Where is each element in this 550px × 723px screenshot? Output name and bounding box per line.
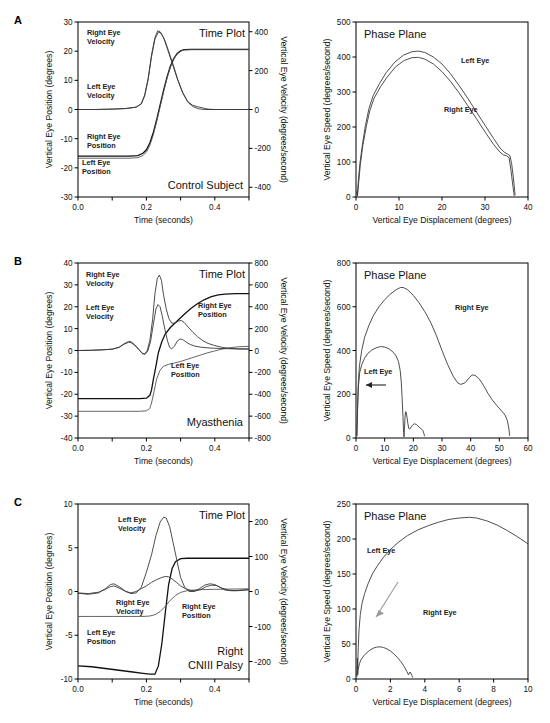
y-tick-label: -20: [61, 390, 73, 399]
y2-tick-label: -200: [255, 368, 272, 377]
label-right-eye-position-2: Position: [87, 141, 116, 150]
y-tick-label: 0: [68, 347, 73, 356]
y2-axis-title: Vertical Eye Velocity (degrees/second): [279, 518, 289, 665]
y-tick-label: -10: [61, 135, 73, 144]
label-right-eye-velocity-2: Velocity: [87, 37, 116, 46]
condition-label: Control Subject: [168, 179, 243, 191]
trace-left-eye-position: [78, 346, 249, 411]
time-plot-title: Time Plot: [199, 27, 245, 39]
x-tick-label: 10: [523, 685, 533, 694]
time-plot-title: Time Plot: [199, 268, 245, 280]
y2-tick-label: 0: [255, 588, 260, 597]
annotation-arrow-diagonal-head: [376, 610, 384, 617]
y-tick-label: 50: [341, 640, 351, 649]
phase-plane-title: Phase Plane: [364, 269, 426, 281]
x-tick-label: 20: [437, 203, 447, 212]
x-tick-label: 20: [409, 444, 419, 453]
label-right-eye: Right Eye: [444, 105, 478, 114]
label-left-eye-position-2: Position: [87, 637, 116, 646]
trace-left-eye-velocity: [78, 517, 249, 594]
x-tick-label: 0.4: [209, 444, 221, 453]
x-tick-label: 60: [523, 444, 533, 453]
y2-tick-label: 400: [255, 28, 269, 37]
label-left-eye: Left Eye: [461, 56, 489, 65]
x-axis-title: Time (seconds): [134, 215, 193, 225]
y-axis-title: Vertical Eye Position (degrees): [44, 292, 54, 410]
label-right-eye-position: Right Eye: [87, 132, 121, 141]
x-tick-label: 10: [394, 203, 404, 212]
y-tick-label: 100: [337, 605, 351, 614]
y2-tick-label: 200: [255, 518, 269, 527]
figure-container: A 0.00.20.4-30-20-100102030-400-20002004…: [0, 0, 550, 723]
y-tick-label: 200: [337, 390, 351, 399]
label-left-eye-position: Left Eye: [87, 628, 115, 637]
y-tick-label: -20: [61, 164, 73, 173]
label-right-eye-position-2: Position: [198, 310, 227, 319]
trace-left-eye: [357, 51, 515, 195]
x-tick-label: 0.4: [209, 685, 221, 694]
y-tick-label: 10: [63, 325, 73, 334]
x-tick-label: 0.0: [72, 203, 84, 212]
y2-tick-label: -400: [255, 183, 272, 192]
label-left-eye-position: Left Eye: [171, 361, 199, 370]
x-axis-title: Time (seconds): [134, 697, 193, 707]
y-tick-label: 40: [63, 259, 73, 268]
label-right-eye-position: Right Eye: [182, 602, 216, 611]
y-tick-label: 100: [337, 158, 351, 167]
annotation-arrow-left-head: [366, 382, 372, 388]
y-axis-title: Vertical Eye Position (degrees): [44, 51, 54, 169]
condition-label-line1: Right: [217, 645, 243, 657]
y-tick-label: -5: [65, 631, 73, 640]
x-tick-label: 8: [491, 685, 496, 694]
label-left-eye-position: Left Eye: [82, 158, 110, 167]
y-tick-label: 0: [68, 588, 73, 597]
x-tick-label: 0: [354, 444, 359, 453]
y2-tick-label: -100: [255, 623, 272, 632]
x-tick-label: 10: [380, 444, 390, 453]
label-left-eye-velocity: Left Eye: [86, 303, 114, 312]
y-tick-label: 300: [337, 88, 351, 97]
plot-frame: [356, 504, 528, 679]
x-tick-label: 4: [423, 685, 428, 694]
label-left-eye-position-2: Position: [82, 167, 111, 176]
x-tick-label: 0: [354, 203, 359, 212]
chart-b-time: 0.00.20.4-40-30-20-10010203040-800-600-4…: [44, 259, 289, 466]
time-plot-title: Time Plot: [199, 509, 245, 521]
y-tick-label: 20: [63, 303, 73, 312]
y2-tick-label: 0: [255, 347, 260, 356]
x-tick-label: 0.0: [72, 685, 84, 694]
label-right-eye-position-2: Position: [182, 611, 211, 620]
y2-tick-label: -200: [255, 144, 272, 153]
y-tick-label: 0: [346, 434, 351, 443]
y-tick-label: -30: [61, 193, 73, 202]
chart-c-phase: 0246810050100150200250Vertical Eye Displ…: [322, 500, 533, 707]
y-tick-label: 0: [346, 193, 351, 202]
y-tick-label: 500: [337, 18, 351, 27]
y-tick-label: 10: [63, 76, 73, 85]
y2-tick-label: -200: [255, 658, 272, 667]
y-tick-label: 10: [63, 500, 73, 509]
x-tick-label: 50: [495, 444, 505, 453]
phase-plane-title: Phase Plane: [364, 28, 426, 40]
label-left-eye-velocity-2: Velocity: [86, 312, 115, 321]
panel-a-svg: A 0.00.20.4-30-20-100102030-400-20002004…: [0, 0, 550, 241]
y2-tick-label: 600: [255, 281, 269, 290]
label-left-eye-velocity: Left Eye: [87, 82, 115, 91]
trace-right-eye: [357, 647, 413, 678]
trace-right-eye-position: [78, 589, 249, 617]
condition-label-line2: CNIII Palsy: [188, 659, 244, 671]
chart-c-time: 0.00.20.4-10-50510-200-1000100200Time (s…: [44, 500, 289, 707]
panel-b: B 0.00.20.4-40-30-20-10010203040-800-600…: [0, 241, 550, 482]
y2-tick-label: 0: [255, 106, 260, 115]
trace-right-eye-velocity: [78, 576, 249, 593]
y-tick-label: -10: [61, 675, 73, 684]
y-tick-label: -30: [61, 412, 73, 421]
label-left-eye: Left Eye: [364, 367, 392, 376]
x-tick-label: 40: [523, 203, 533, 212]
y-tick-label: 600: [337, 303, 351, 312]
y-tick-label: -40: [61, 434, 73, 443]
x-tick-label: 0.2: [141, 203, 153, 212]
label-right-eye-position: Right Eye: [198, 301, 232, 310]
x-tick-label: 0.0: [72, 444, 84, 453]
label-left-eye-velocity-2: Velocity: [118, 524, 147, 533]
